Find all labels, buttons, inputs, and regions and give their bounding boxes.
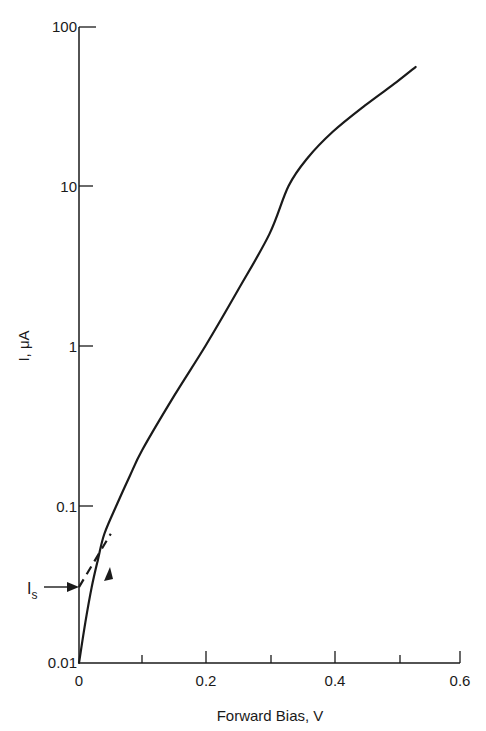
y-tick-label: 0.1 [56, 498, 77, 515]
y-tick-label: 1 [69, 338, 77, 355]
x-tick-label: 0.2 [196, 672, 217, 689]
x-tick-label: 0 [75, 672, 83, 689]
is-label: Is [27, 580, 37, 602]
y-tick-label: 0.01 [48, 654, 77, 671]
arrow-right-icon [67, 582, 79, 592]
y-ticks [79, 27, 96, 506]
x-axis-title: Forward Bias, V [217, 707, 324, 724]
arrowhead-icon [104, 567, 113, 581]
y-tick-labels: 100 10 1 0.1 0.01 [48, 18, 77, 671]
y-tick-label: 100 [52, 18, 77, 35]
x-ticks [142, 651, 460, 663]
y-axis-title: I, μA [15, 330, 32, 361]
x-tick-label: 0.6 [450, 672, 471, 689]
x-tick-label: 0.4 [325, 672, 346, 689]
x-tick-labels: 0 0.2 0.4 0.6 [75, 672, 471, 689]
y-tick-label: 10 [60, 178, 77, 195]
iv-curve [79, 67, 416, 663]
is-annotation: Is [27, 580, 79, 602]
chart: 100 10 1 0.1 0.01 0 0.2 0.4 0.6 Forward … [0, 0, 486, 731]
